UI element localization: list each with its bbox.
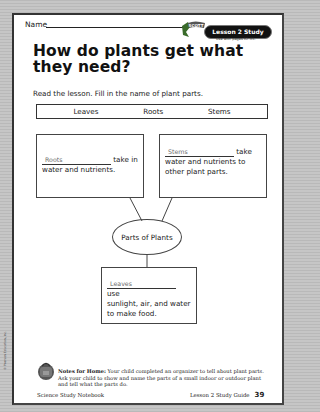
notes-for-home: Notes for Home: Your child completed an … [58,368,268,388]
answer-field-stems[interactable]: Stems [165,147,234,157]
page-number: 39 [255,391,265,399]
box-text: use [107,289,120,298]
organizer-box-leaves: Leaves use sunlight, air, and water to m… [101,267,197,324]
answer-field-leaves[interactable]: Leaves [107,279,176,289]
organizer-box-roots: Roots take in water and nutrients. [36,134,144,198]
notes-label: Notes for Home: [58,368,106,374]
box-text: take in [113,155,137,164]
connector-lines [0,0,291,412]
footer-lesson-label: Lesson 2 Study Guide [190,392,250,398]
backpack-icon [35,360,57,382]
box-text: take [236,147,252,156]
footer-lesson: Lesson 2 Study Guide39 [190,391,264,399]
organizer-box-stems: Stems take water and nutrients to other … [159,134,267,198]
box-text-rest: sunlight, air, and water to make food. [107,299,191,319]
box-text-rest: water and nutrients to other plant parts… [165,157,261,177]
copyright-notice: © Pearson Education, Inc. [3,331,7,370]
answer-field-roots[interactable]: Roots [42,155,111,165]
box-text-rest: water and nutrients. [42,165,138,175]
organizer-center-oval: Parts of Plants [112,219,182,255]
footer-book-title: Science Study Notebook [37,392,104,398]
